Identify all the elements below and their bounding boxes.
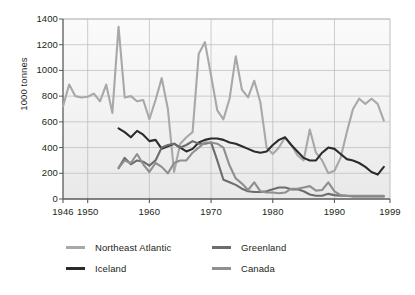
chart-root: 1000 tonnes 0200400600800100012001400 19… — [0, 0, 415, 295]
legend-label: Greenland — [241, 242, 286, 253]
chart-legend: Northeast Atlantic Greenland Iceland Can… — [64, 240, 364, 286]
legend-swatch-icon — [212, 246, 231, 249]
legend-swatch-icon — [212, 267, 231, 270]
legend-entry-northeast-atlantic[interactable]: Northeast Atlantic — [66, 242, 189, 253]
legend-swatch-icon — [66, 246, 85, 249]
legend-label: Northeast Atlantic — [95, 242, 171, 253]
legend-entry-greenland[interactable]: Greenland — [212, 242, 304, 253]
legend-label: Canada — [241, 263, 275, 274]
legend-swatch-icon — [66, 267, 85, 270]
legend-label: Iceland — [95, 263, 126, 274]
legend-entry-canada[interactable]: Canada — [212, 263, 293, 274]
legend-entry-iceland[interactable]: Iceland — [66, 263, 144, 274]
